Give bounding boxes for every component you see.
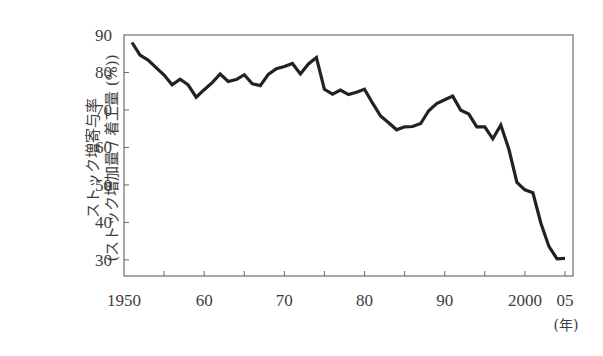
- plot-frame: [124, 35, 573, 276]
- axes: [124, 35, 573, 276]
- x-tick-label: 2000: [508, 291, 542, 310]
- y-axis-label-line2: (ストック増加量 / 着工量 (%)): [103, 54, 121, 261]
- y-tick-label: 90: [95, 26, 112, 45]
- x-axis: 195060708090200005: [107, 271, 573, 310]
- x-tick-label: 60: [196, 291, 213, 310]
- x-tick-label: 80: [356, 291, 373, 310]
- line-chart: 30405060708090 195060708090200005 ストック増寄…: [0, 0, 603, 356]
- series-line: [132, 43, 565, 259]
- x-axis-unit-label: (年): [554, 317, 579, 333]
- x-tick-label: 05: [556, 291, 573, 310]
- y-axis-label-line1: ストック増寄与率: [84, 98, 102, 218]
- x-tick-label: 90: [436, 291, 453, 310]
- x-tick-label: 70: [276, 291, 293, 310]
- series-group: [132, 42, 565, 258]
- x-tick-label: 1950: [107, 291, 141, 310]
